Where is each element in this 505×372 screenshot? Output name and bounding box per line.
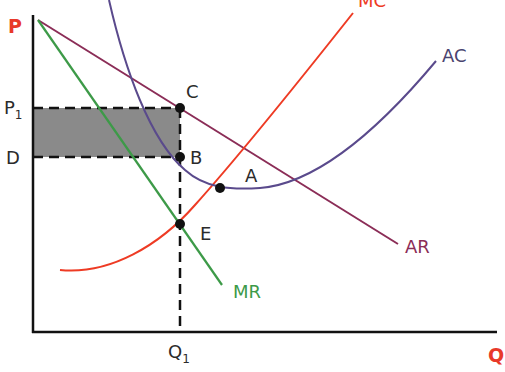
point-e <box>175 219 185 229</box>
profit-area <box>33 108 180 157</box>
mc-label: MC <box>358 0 386 11</box>
ac-label: AC <box>442 45 467 66</box>
point-a-label: A <box>245 165 258 186</box>
point-c-label: C <box>186 81 199 102</box>
x-axis-label: Q <box>488 344 504 366</box>
mr-label: MR <box>233 281 261 302</box>
monopoly-diagram: P Q P1 D Q1 C B A E AR MR MC AC <box>0 0 505 372</box>
point-a <box>215 183 225 193</box>
q1-label: Q1 <box>168 341 190 366</box>
point-b-label: B <box>190 147 202 168</box>
ar-label: AR <box>405 236 430 257</box>
d-label: D <box>6 147 20 168</box>
point-c <box>175 103 185 113</box>
y-axis-label: P <box>8 15 22 37</box>
point-b <box>175 152 185 162</box>
p1-label: P1 <box>4 97 23 122</box>
point-e-label: E <box>200 223 211 244</box>
